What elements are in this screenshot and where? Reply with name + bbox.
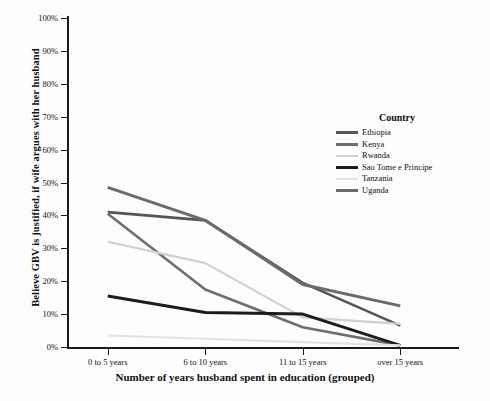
y-tick-mark [61,117,68,118]
legend-color-swatch [336,143,358,146]
x-tick-mark [108,349,109,355]
y-tick-label: 20% [0,276,58,286]
x-tick-label: 11 to 15 years [279,357,327,367]
legend-item[interactable]: Uganda [336,185,488,197]
legend-item-label: Ethiopia [362,127,391,138]
x-tick-mark [205,349,206,355]
x-tick-label: 6 to 10 years [183,357,227,367]
series-lines [0,0,490,401]
y-tick-mark [61,347,68,348]
legend: Country EthiopiaKenyaRwandaSao Tome e Pr… [336,112,488,196]
y-tick-mark [61,183,68,184]
legend-item[interactable]: Tanzania [336,173,488,185]
legend-color-swatch [336,155,358,157]
legend-color-swatch [336,166,358,169]
y-tick-mark [61,281,68,282]
legend-color-swatch [336,189,358,192]
series-line [108,335,401,345]
x-tick-mark [400,349,401,355]
y-tick-label: 100% [0,13,58,23]
y-tick-label: 80% [0,79,58,89]
y-tick-mark [61,150,68,151]
series-line [108,212,401,326]
legend-item[interactable]: Rwanda [336,150,488,162]
series-line [108,214,401,346]
legend-color-swatch [336,131,358,134]
x-tick-mark [303,349,304,355]
chart-figure: Believe GBV is justified, if wife argues… [0,0,490,401]
x-tick-label: over 15 years [377,357,423,367]
y-tick-mark [61,248,68,249]
y-tick-mark [61,215,68,216]
legend-item[interactable]: Sao Tome e Principe [336,162,488,174]
series-line [108,242,401,324]
y-tick-mark [61,84,68,85]
y-tick-label: 40% [0,210,58,220]
y-tick-label: 60% [0,145,58,155]
y-tick-label: 90% [0,46,58,56]
legend-item-label: Sao Tome e Principe [362,162,432,173]
y-tick-label: 10% [0,309,58,319]
legend-item-label: Uganda [362,185,388,196]
y-tick-label: 70% [0,112,58,122]
legend-item[interactable]: Ethiopia [336,127,488,139]
series-line [108,187,401,305]
y-tick-label: 30% [0,243,58,253]
legend-item[interactable]: Kenya [336,139,488,151]
legend-item-label: Kenya [362,139,384,150]
y-tick-mark [61,51,68,52]
legend-title: Country [338,112,456,123]
y-tick-label: 50% [0,178,58,188]
series-line [108,296,401,345]
legend-color-swatch [336,178,358,180]
x-axis-title: Number of years husband spent in educati… [0,371,490,383]
legend-items: EthiopiaKenyaRwandaSao Tome e PrincipeTa… [336,127,488,196]
legend-item-label: Tanzania [362,173,393,184]
legend-item-label: Rwanda [362,150,390,161]
x-tick-label: 0 to 5 years [88,357,127,367]
y-tick-label: 0% [0,342,58,352]
y-tick-mark [61,18,68,19]
y-tick-mark [61,314,68,315]
